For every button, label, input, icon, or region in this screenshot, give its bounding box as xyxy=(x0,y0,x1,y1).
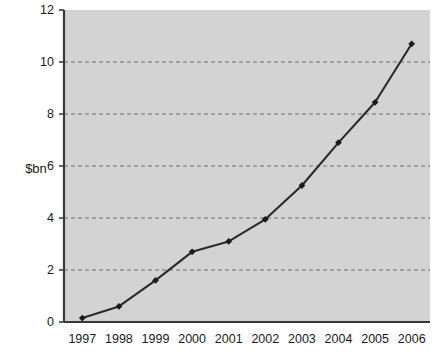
y-tick-label: 2 xyxy=(47,263,54,277)
x-tick-label: 2000 xyxy=(178,332,206,346)
y-axis-title: $bn xyxy=(25,161,47,176)
x-tick-label: 1999 xyxy=(142,332,170,346)
y-tick-label: 10 xyxy=(40,55,54,69)
y-tick-label: 4 xyxy=(47,211,54,225)
x-tick-label: 2004 xyxy=(325,332,353,346)
x-tick-label: 2006 xyxy=(398,332,426,346)
y-tick-label: 6 xyxy=(47,159,54,173)
x-tick-label: 2005 xyxy=(361,332,389,346)
y-tick-label: 8 xyxy=(47,107,54,121)
x-tick-label: 1998 xyxy=(105,332,133,346)
line-chart: 024681012 199719981999200020012002200320… xyxy=(0,0,447,359)
chart-canvas: 024681012 199719981999200020012002200320… xyxy=(0,0,447,359)
x-tick-label: 1997 xyxy=(68,332,96,346)
x-tick-label: 2003 xyxy=(288,332,316,346)
x-tick-label: 2002 xyxy=(251,332,279,346)
x-tick-label: 2001 xyxy=(215,332,243,346)
y-tick-label: 12 xyxy=(40,3,54,17)
y-tick-label: 0 xyxy=(47,315,54,329)
